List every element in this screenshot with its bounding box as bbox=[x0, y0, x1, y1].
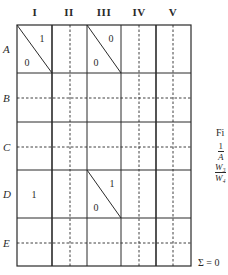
cell-d-iii-lower-value: 0 bbox=[94, 202, 99, 213]
cell-a-i-lower-value: 0 bbox=[25, 57, 30, 68]
row-header-a: A bbox=[3, 43, 10, 55]
row-header-c: C bbox=[3, 141, 10, 153]
caption-title-fragment: Fi bbox=[216, 127, 224, 138]
cell-d-i-value: 1 bbox=[32, 189, 37, 200]
cell-a-iii-lower-value: 0 bbox=[94, 57, 99, 68]
column-header-v: V bbox=[169, 6, 177, 18]
fraction-1-denominator: A bbox=[218, 152, 224, 162]
grid-lines bbox=[0, 0, 228, 275]
cell-a-i-upper-value: 1 bbox=[40, 33, 45, 44]
column-header-iii: III bbox=[97, 6, 111, 18]
caption-fraction-2: W₃ W₄ bbox=[215, 162, 226, 183]
row-header-d: D bbox=[3, 188, 11, 200]
sum-label: Σ = 0 bbox=[198, 257, 219, 268]
fraction-1-numerator: 1 bbox=[218, 141, 224, 152]
fraction-2-denominator: W₄ bbox=[215, 173, 226, 183]
fraction-2-numerator: W₃ bbox=[215, 162, 226, 173]
column-header-i: I bbox=[33, 6, 38, 18]
row-header-b: B bbox=[3, 92, 10, 104]
cell-a-iii-upper-value: 0 bbox=[109, 33, 114, 44]
caption-fraction-1: 1 A bbox=[218, 141, 224, 162]
column-header-iv: IV bbox=[132, 6, 145, 18]
cell-d-iii-upper-value: 1 bbox=[110, 178, 115, 189]
row-header-e: E bbox=[3, 237, 10, 249]
column-header-ii: II bbox=[64, 6, 74, 18]
